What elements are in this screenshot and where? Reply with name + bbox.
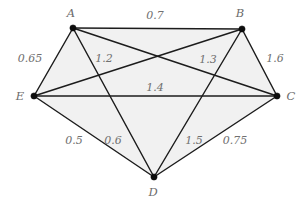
node-dot-E [31, 93, 37, 99]
edge-weight-A-E: 0.65 [18, 52, 43, 65]
graph-canvas: A B C D E 0.7 0.65 1.2 1.3 1.6 1.4 0.5 0… [0, 0, 308, 207]
node-label-B: B [235, 6, 244, 20]
edge-weight-B-D: 1.3 [199, 53, 217, 66]
edge-weight-A-C: 0.6 [104, 134, 122, 147]
graph-outer-face [34, 28, 277, 177]
node-dot-D [151, 174, 157, 180]
node-label-E: E [15, 89, 25, 103]
edge-weight-B-E: 1.5 [185, 134, 203, 147]
node-label-D: D [147, 185, 157, 199]
edge-A-B [73, 28, 242, 29]
graph-face-group [34, 28, 277, 177]
node-dot-A [70, 25, 76, 31]
node-label-A: A [66, 6, 75, 20]
edge-weight-B-C: 1.6 [266, 52, 284, 65]
edge-weight-E-C: 1.4 [146, 81, 164, 94]
edge-weight-C-D: 0.75 [223, 134, 248, 147]
edge-weight-A-B: 0.7 [146, 9, 164, 22]
weighted-graph-figure: A B C D E 0.7 0.65 1.2 1.3 1.6 1.4 0.5 0… [0, 0, 308, 207]
node-label-C: C [287, 89, 296, 103]
edge-weight-E-D: 0.5 [65, 134, 83, 147]
edge-weight-A-D: 1.2 [95, 52, 113, 65]
node-dot-C [274, 93, 280, 99]
node-dot-B [239, 26, 245, 32]
